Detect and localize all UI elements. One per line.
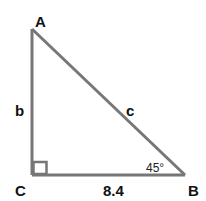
angle-b-label: 45° [146,161,164,175]
right-angle-marker [34,162,47,174]
vertex-b-label: B [188,182,199,199]
vertex-c-label: C [15,182,26,199]
side-c-line [32,29,185,175]
side-b-label: b [15,102,24,119]
right-triangle-diagram: A C B b c 8.4 45° [0,0,206,201]
side-a-label: 8.4 [103,182,125,199]
vertex-a-label: A [35,13,46,30]
side-c-label: c [126,102,134,119]
